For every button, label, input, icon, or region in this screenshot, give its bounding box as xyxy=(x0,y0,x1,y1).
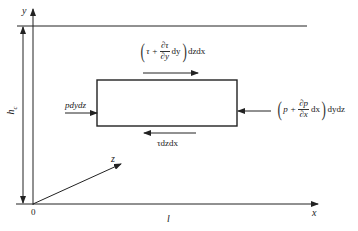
formula-lead: τ + xyxy=(146,46,158,56)
origin-label: 0 xyxy=(31,208,36,217)
close-paren: ) xyxy=(322,98,326,120)
partial-fraction: ∂p ∂x xyxy=(298,99,309,119)
formula-tail: dy xyxy=(172,46,181,56)
fluid-element-box xyxy=(97,80,237,126)
height-label: hc xyxy=(6,106,19,114)
left-pressure-label: pdydz xyxy=(65,101,86,110)
formula-tail: dx xyxy=(311,104,320,114)
formula-suffix: dzdx xyxy=(188,46,206,56)
open-paren: ( xyxy=(140,40,144,62)
top-shear-formula: ( τ + ∂τ ∂y dy ) dzdx xyxy=(139,40,205,62)
y-axis-label: y xyxy=(22,6,26,16)
open-paren: ( xyxy=(277,98,281,120)
partial-fraction: ∂τ ∂y xyxy=(160,41,170,61)
z-axis xyxy=(33,164,121,204)
bottom-shear-label: τdzdx xyxy=(157,139,178,148)
length-label: l xyxy=(167,214,170,224)
formula-suffix: dydz xyxy=(327,104,345,114)
right-pressure-formula: ( p + ∂p ∂x dx ) dydz xyxy=(276,98,345,120)
x-axis-label: x xyxy=(312,208,316,218)
close-paren: ) xyxy=(182,40,186,62)
z-axis-label: z xyxy=(111,154,115,164)
formula-lead: p + xyxy=(283,104,296,114)
